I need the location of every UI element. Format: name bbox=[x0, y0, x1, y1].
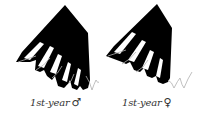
label-first-year-female: 1st-year♀ bbox=[122, 96, 171, 109]
female-symbol-icon: ♀ bbox=[164, 96, 172, 109]
label-text: 1st-year bbox=[122, 97, 162, 108]
wing-illustration-male bbox=[0, 0, 100, 92]
panel-first-year-female: 1st-year♀ bbox=[100, 0, 203, 118]
label-text: 1st-year bbox=[30, 97, 70, 108]
wing-illustration-female bbox=[100, 0, 203, 92]
label-first-year-male: 1st-year♂ bbox=[30, 96, 81, 109]
feather-outline bbox=[168, 72, 192, 88]
panel-first-year-male: 1st-year♂ bbox=[0, 0, 100, 118]
wing-dark-mass-female bbox=[106, 4, 172, 84]
male-symbol-icon: ♂ bbox=[72, 96, 82, 109]
